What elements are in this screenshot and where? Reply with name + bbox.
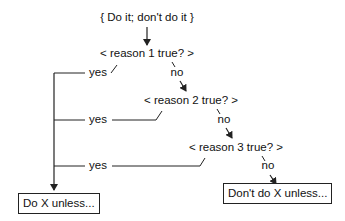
edge-reason2-no-arrow (226, 128, 232, 138)
outcome-do-x-box: Do X unless... (18, 193, 100, 214)
root-node: { Do it; don't do it } (100, 11, 194, 24)
reason-2-yes-label: yes (89, 113, 107, 126)
outcome-dont-do-x-box: Don't do X unless... (223, 183, 332, 204)
edge-reason1-yes-slash (111, 65, 117, 73)
decision-reason-3: < reason 3 true? > (189, 141, 283, 154)
reason-3-no-label: no (262, 159, 275, 172)
reason-3-yes-label: yes (89, 159, 107, 172)
reason-2-no-label: no (218, 113, 231, 126)
edge-reason3-yes-slash (200, 158, 205, 166)
reason-1-no-label: no (171, 66, 184, 79)
edge-reason2-yes-slash (156, 111, 162, 120)
decision-reason-2: < reason 2 true? > (144, 94, 238, 107)
edge-reason1-no-arrow (180, 81, 186, 91)
reason-1-yes-label: yes (89, 66, 107, 79)
decision-reason-1: < reason 1 true? > (100, 47, 194, 60)
